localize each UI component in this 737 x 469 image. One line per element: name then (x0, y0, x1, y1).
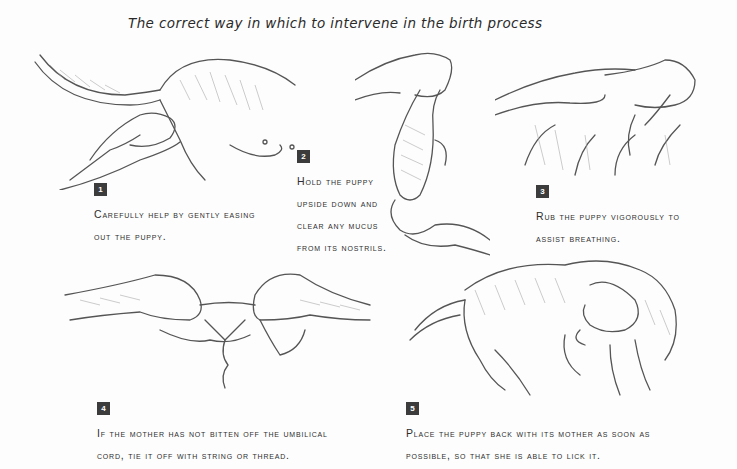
step-2-caption: 2 Hold the puppy upside down and clear a… (297, 150, 387, 258)
hands-rubbing-puppy-icon (495, 55, 735, 180)
caption-line: If the mother has not bitten off the umb… (97, 422, 328, 444)
step-3-caption: 3 Rub the puppy vigorously to assist bre… (536, 185, 680, 249)
mother-dog-licking-puppy-icon (405, 250, 695, 400)
illustration-step-3 (495, 55, 735, 180)
caption-line: Carefully help by gently easing (94, 203, 255, 225)
caption-line: clear any mucus (297, 214, 387, 236)
hands-easing-puppy-icon (30, 50, 300, 190)
caption-line: upside down and (297, 192, 387, 214)
caption-line: Place the puppy back with its mother as … (406, 422, 650, 444)
step-number-badge: 3 (536, 185, 549, 198)
hands-tying-cord-icon (60, 260, 380, 395)
step-number-badge: 2 (297, 150, 310, 163)
illustration-step-5 (405, 250, 695, 400)
step-5-caption: 5 Place the puppy back with its mother a… (406, 402, 650, 466)
caption-line: out the puppy. (94, 225, 255, 247)
step-1-caption: 1 Carefully help by gently easing out th… (94, 183, 255, 247)
caption-line: assist breathing. (536, 227, 680, 249)
illustration-step-4 (60, 260, 380, 395)
step-number-badge: 5 (406, 402, 419, 415)
caption-line: from its nostrils. (297, 236, 387, 258)
illustration-step-1 (30, 50, 300, 190)
page-title: The correct way in which to intervene in… (128, 15, 542, 31)
step-4-caption: 4 If the mother has not bitten off the u… (97, 402, 328, 466)
caption-line: Hold the puppy (297, 170, 387, 192)
step-number-badge: 1 (94, 183, 107, 196)
caption-line: Rub the puppy vigorously to (536, 205, 680, 227)
caption-line: cord, tie it off with string or thread. (97, 444, 328, 466)
step-number-badge: 4 (97, 402, 110, 415)
caption-line: possible, so that she is able to lick it… (406, 444, 650, 466)
